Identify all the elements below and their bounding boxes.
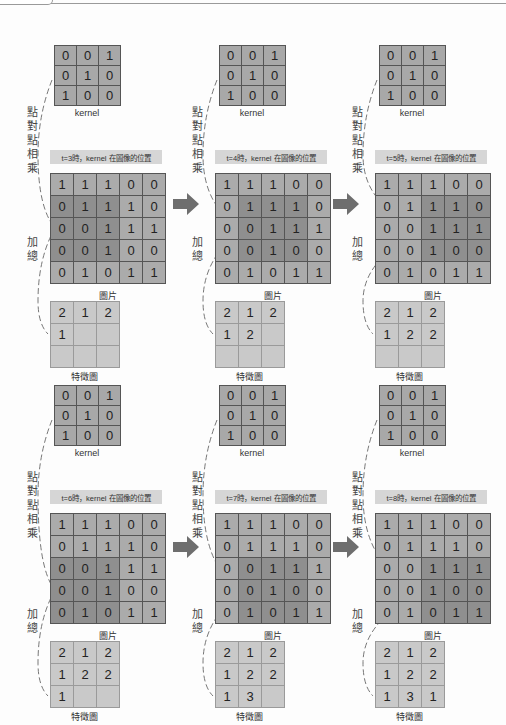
kernel-cell: 0 xyxy=(264,406,285,425)
sum-label-char: 加 xyxy=(26,607,38,621)
image-cell: 1 xyxy=(120,536,142,557)
sum-label-char: 加 xyxy=(191,235,203,249)
multiply-label-char: 點 xyxy=(26,498,38,512)
kernel-grid: 001010100 xyxy=(219,45,286,106)
image-cell: 0 xyxy=(468,514,490,535)
image-cell: 1 xyxy=(143,602,165,623)
image-cell: 0 xyxy=(216,196,238,217)
image-cell-highlighted: 0 xyxy=(262,602,284,623)
image-cell: 0 xyxy=(399,240,421,261)
feature-map-cell xyxy=(97,686,119,707)
image-cell: 0 xyxy=(468,174,490,195)
kernel-cell: 1 xyxy=(424,46,445,65)
kernel-cell: 0 xyxy=(77,386,98,405)
image-cell: 1 xyxy=(399,514,421,535)
feature-map-cell: 1 xyxy=(216,686,238,707)
feature-map-cell: 2 xyxy=(262,664,284,685)
sum-label-char: 加 xyxy=(26,235,38,249)
image-cell: 1 xyxy=(74,262,96,283)
multiply-label-char: 乘 xyxy=(26,526,38,540)
kernel-cell: 0 xyxy=(99,406,120,425)
image-grid: 1110001110001110010001011 xyxy=(215,173,331,284)
feature-map-label: 特徵圖 xyxy=(215,370,283,383)
image-cell: 1 xyxy=(51,174,73,195)
image-cell: 1 xyxy=(262,514,284,535)
feature-map-cell xyxy=(399,346,421,367)
image-cell: 1 xyxy=(399,602,421,623)
kernel-cell: 1 xyxy=(264,386,285,405)
image-cell: 0 xyxy=(376,580,398,601)
sum-label-char: 加 xyxy=(351,607,363,621)
kernel-cell: 1 xyxy=(55,86,76,105)
image-cell: 0 xyxy=(143,514,165,535)
image-cell: 1 xyxy=(74,514,96,535)
image-cell-highlighted: 1 xyxy=(422,580,444,601)
kernel-cell: 0 xyxy=(55,66,76,85)
multiply-label-char: 對 xyxy=(351,484,363,498)
kernel-cell: 0 xyxy=(220,66,241,85)
image-cell-highlighted: 0 xyxy=(51,240,73,261)
kernel-cell: 0 xyxy=(380,386,401,405)
image-cell-highlighted: 0 xyxy=(422,602,444,623)
image-cell-highlighted: 1 xyxy=(97,558,119,579)
image-cell: 0 xyxy=(422,262,444,283)
image-cell-highlighted: 1 xyxy=(445,558,467,579)
kernel-cell: 0 xyxy=(242,386,263,405)
image-cell: 1 xyxy=(422,536,444,557)
image-cell-highlighted: 1 xyxy=(97,240,119,261)
kernel-cell: 1 xyxy=(55,426,76,445)
image-cell: 0 xyxy=(97,262,119,283)
image-cell: 0 xyxy=(120,514,142,535)
kernel-cell: 1 xyxy=(99,46,120,65)
image-cell-highlighted: 0 xyxy=(97,602,119,623)
step-caption: t=8時，kernel 在圖像的位置 xyxy=(375,490,487,504)
feature-map-cell: 1 xyxy=(376,664,398,685)
image-cell: 1 xyxy=(239,174,261,195)
kernel-cell: 0 xyxy=(55,386,76,405)
image-cell: 1 xyxy=(399,262,421,283)
multiply-label-char: 相 xyxy=(191,147,203,161)
image-cell: 1 xyxy=(262,536,284,557)
image-cell-highlighted: 0 xyxy=(468,580,490,601)
kernel-cell: 0 xyxy=(264,66,285,85)
feature-map-cell: 1 xyxy=(216,324,238,345)
image-cell: 0 xyxy=(399,580,421,601)
image-cell-highlighted: 0 xyxy=(51,558,73,579)
multiply-label: 點對點相乘 xyxy=(191,105,203,175)
kernel-label: kernel xyxy=(54,448,120,458)
kernel-grid: 001010100 xyxy=(54,45,121,106)
kernel-cell: 1 xyxy=(242,406,263,425)
image-cell-highlighted: 1 xyxy=(445,218,467,239)
feature-map-cell xyxy=(74,324,96,345)
feature-map-cell: 1 xyxy=(51,664,73,685)
image-cell: 0 xyxy=(285,514,307,535)
kernel-cell: 0 xyxy=(402,46,423,65)
multiply-label-char: 相 xyxy=(26,512,38,526)
feature-map-cell: 2 xyxy=(239,664,261,685)
kernel-cell: 0 xyxy=(424,66,445,85)
image-cell: 1 xyxy=(468,262,490,283)
image-cell-highlighted: 1 xyxy=(422,196,444,217)
image-cell: 0 xyxy=(399,558,421,579)
image-cell: 1 xyxy=(97,174,119,195)
image-grid: 1110001110001110010001011 xyxy=(215,513,331,624)
multiply-label: 點對點相乘 xyxy=(351,105,363,175)
kernel-cell: 0 xyxy=(77,46,98,65)
image-cell-highlighted: 0 xyxy=(51,580,73,601)
kernel-cell: 0 xyxy=(402,426,423,445)
multiply-label-char: 對 xyxy=(191,119,203,133)
multiply-label-char: 點 xyxy=(351,133,363,147)
image-cell: 0 xyxy=(143,240,165,261)
image-cell: 0 xyxy=(308,514,330,535)
sum-label: 加總 xyxy=(351,235,363,263)
image-cell: 1 xyxy=(308,602,330,623)
feature-map-cell: 2 xyxy=(422,302,444,323)
kernel-cell: 1 xyxy=(77,406,98,425)
feature-map-cell: 1 xyxy=(399,642,421,663)
image-cell: 0 xyxy=(308,240,330,261)
kernel-cell: 0 xyxy=(242,426,263,445)
kernel-grid: 001010100 xyxy=(54,385,121,446)
feature-map-grid: 21212 xyxy=(215,301,285,368)
image-cell-highlighted: 1 xyxy=(262,218,284,239)
image-cell: 1 xyxy=(376,174,398,195)
